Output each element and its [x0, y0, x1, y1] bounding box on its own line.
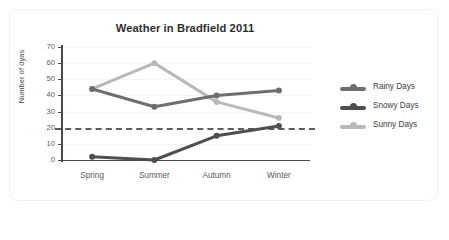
reference-line-20: [55, 128, 315, 130]
data-point: [214, 99, 220, 105]
legend-marker-dot: [350, 122, 357, 129]
y-axis-tick-label: 0: [21, 155, 55, 164]
x-axis-label-winter: Winter: [249, 171, 309, 180]
gridline: [61, 112, 310, 113]
y-axis-tick-label: 50: [21, 74, 55, 83]
gridline: [61, 79, 310, 80]
legend-marker-dot: [350, 103, 357, 110]
data-point: [89, 154, 95, 160]
legend-item-rainy-days[interactable]: Rainy Days: [340, 83, 440, 102]
data-point: [214, 133, 220, 139]
x-axis-label-summer: Summer: [124, 171, 184, 180]
y-axis-tick-label: 40: [21, 90, 55, 99]
y-axis-line: [61, 45, 63, 162]
data-point: [89, 86, 95, 92]
data-point: [151, 104, 157, 110]
x-axis-label-autumn: Autumn: [187, 171, 247, 180]
gridline: [61, 63, 310, 64]
y-axis-tick-label: 10: [21, 139, 55, 148]
legend-label: Sunny Days: [373, 120, 417, 129]
legend-label: Snowy Days: [373, 101, 419, 110]
y-axis-tick-label: 20: [21, 123, 55, 132]
series-line-rainy-days: [92, 89, 279, 107]
gridline: [61, 95, 310, 96]
data-point: [276, 115, 282, 121]
legend-marker-dot: [350, 84, 357, 91]
y-axis-tick-label: 60: [21, 58, 55, 67]
gridline: [61, 47, 310, 48]
legend-item-snowy-days[interactable]: Snowy Days: [340, 102, 440, 121]
y-axis-tick-label: 30: [21, 107, 55, 116]
chart-legend: Rainy DaysSnowy DaysSunny Days: [340, 83, 440, 140]
x-axis-line: [61, 160, 310, 161]
data-point: [276, 88, 282, 94]
data-point: [89, 86, 95, 92]
legend-item-sunny-days[interactable]: Sunny Days: [340, 121, 440, 140]
legend-label: Rainy Days: [373, 82, 415, 91]
series-line-sunny-days: [92, 63, 279, 118]
y-axis-tick-label: 70: [21, 42, 55, 51]
gridline: [61, 144, 310, 145]
x-axis-label-spring: Spring: [62, 171, 122, 180]
